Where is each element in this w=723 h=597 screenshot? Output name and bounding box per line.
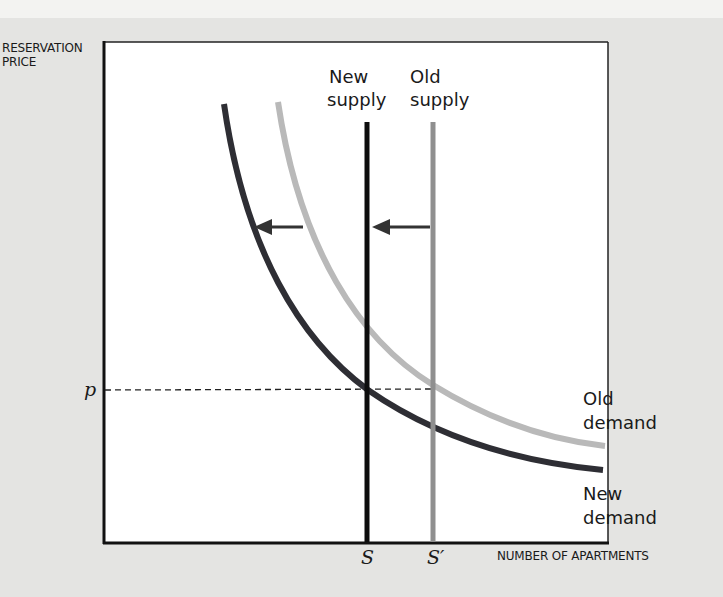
new-supply-label-line2: supply: [327, 89, 387, 110]
x-tick-s-prime: S′: [427, 546, 445, 568]
price-p-label: p: [84, 378, 96, 400]
x-tick-s: S: [361, 546, 374, 568]
new-demand-label-line2: demand: [583, 507, 657, 528]
y-axis-title-line2: PRICE: [2, 55, 36, 69]
new-supply-label-line1: New: [329, 66, 368, 87]
plot-area: [103, 42, 608, 543]
old-supply-label-line1: Old: [410, 66, 441, 87]
y-axis-title-line1: RESERVATION: [2, 41, 83, 55]
x-axis-title: NUMBER OF APARTMENTS: [497, 549, 649, 563]
old-supply-label-line2: supply: [410, 89, 470, 110]
old-demand-label-line1: Old: [583, 388, 614, 409]
supply-demand-chart: RESERVATION PRICE p New supply Old suppl…: [0, 0, 723, 597]
new-demand-label-line1: New: [583, 483, 622, 504]
old-demand-label-line2: demand: [583, 412, 657, 433]
